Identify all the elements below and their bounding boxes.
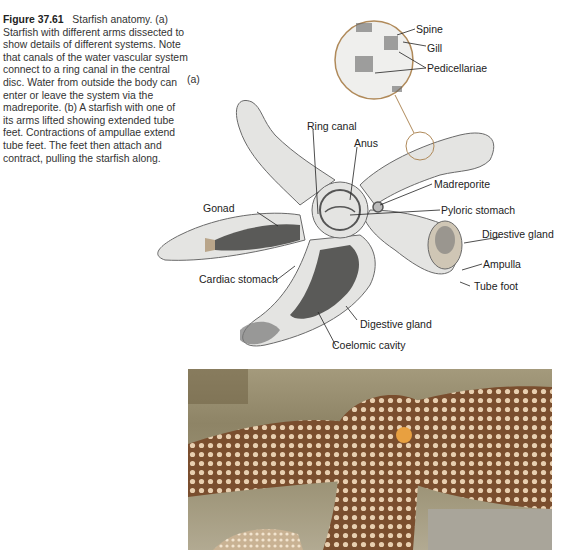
label-anus: Anus <box>354 137 378 149</box>
label-ampulla: Ampulla <box>483 258 521 270</box>
label-pedicellariae: Pedicellariae <box>427 62 487 74</box>
photo-central-disc <box>323 395 444 550</box>
label-ring-canal: Ring canal <box>307 120 357 132</box>
label-pyloric-stomach: Pyloric stomach <box>441 204 515 216</box>
starfish-anatomy-diagram <box>0 0 580 370</box>
label-madreporite: Madreporite <box>434 178 490 190</box>
arm-upper-left <box>236 100 335 205</box>
label-digestive-gland-bottom: Digestive gland <box>360 318 432 330</box>
photo-arm-left <box>188 420 363 497</box>
label-tube-foot: Tube foot <box>474 280 518 292</box>
starfish-photo <box>188 369 552 550</box>
label-gill: Gill <box>427 42 442 54</box>
label-spine: Spine <box>416 23 443 35</box>
label-gonad: Gonad <box>203 202 235 214</box>
label-coelomic-cavity: Coelomic cavity <box>332 339 406 351</box>
label-cardiac-stomach: Cardiac stomach <box>199 273 278 285</box>
photo-madreporite <box>396 427 412 443</box>
arm-upper-right <box>360 133 494 205</box>
photo-lifted-arm-tube-feet <box>213 529 303 550</box>
starfish-photo-illustration <box>188 369 552 550</box>
madreporite <box>373 202 383 212</box>
label-digestive-gland-right: Digestive gland <box>482 228 554 240</box>
